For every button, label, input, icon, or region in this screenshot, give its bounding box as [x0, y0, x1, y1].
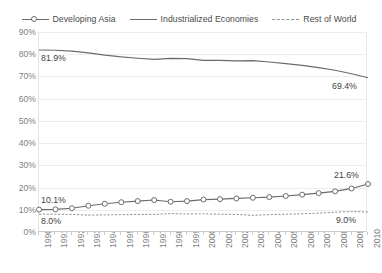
- data-point-marker: [201, 197, 206, 202]
- x-axis-tick-mark: [137, 232, 138, 235]
- legend-label: Rest of World: [303, 14, 356, 24]
- data-point-marker: [300, 192, 305, 197]
- x-axis-tick-mark: [170, 232, 171, 235]
- x-axis-tick-mark: [219, 232, 220, 235]
- x-axis-tick-label: 2005: [289, 236, 299, 248]
- y-axis-tick-label: 50%: [2, 116, 36, 126]
- x-axis-tick-label: 1995: [125, 236, 135, 248]
- line-marker-swatch-icon: [22, 15, 49, 24]
- x-axis-tick-mark: [252, 232, 253, 235]
- y-axis-tick-label: 80%: [2, 49, 36, 59]
- y-axis-tick-label: 30%: [2, 160, 36, 170]
- x-axis-tick-mark: [87, 232, 88, 235]
- x-axis-tick-mark: [54, 232, 55, 235]
- x-axis-tick-mark: [104, 232, 105, 235]
- y-axis-tick-label: 20%: [2, 183, 36, 193]
- series-line-rest-of-world: [39, 212, 368, 216]
- data-point-marker: [283, 194, 288, 199]
- x-axis-tick-label: 1992: [76, 236, 86, 248]
- x-axis-tick-label: 1991: [59, 236, 69, 248]
- data-label: 9.0%: [335, 215, 357, 225]
- x-axis-tick-label: 1990: [43, 236, 53, 248]
- x-axis-tick-label: 2000: [207, 236, 217, 248]
- x-axis-tick-mark: [268, 232, 269, 235]
- x-axis-tick-mark: [367, 232, 368, 235]
- data-point-marker: [234, 196, 239, 201]
- x-axis-tick-mark: [71, 232, 72, 235]
- series-line-industrialized-economies: [39, 50, 368, 78]
- plot-area: [38, 32, 367, 232]
- x-axis-tick-mark: [38, 232, 39, 235]
- x-axis-tick-label: 1994: [108, 236, 118, 248]
- x-axis-tick-label: 1997: [158, 236, 168, 248]
- legend-item-developing-asia[interactable]: Developing Asia: [22, 14, 116, 24]
- data-point-marker: [185, 199, 190, 204]
- x-axis-tick-label: 2002: [240, 236, 250, 248]
- x-axis-tick-mark: [203, 232, 204, 235]
- x-axis-tick-label: 1998: [174, 236, 184, 248]
- data-point-marker: [333, 189, 338, 194]
- data-point-marker: [152, 198, 157, 203]
- x-axis-tick-label: 1999: [191, 236, 201, 248]
- y-axis-tick-label: 90%: [2, 27, 36, 37]
- line-swatch-icon: [130, 15, 157, 24]
- x-axis-tick-label: 1993: [92, 236, 102, 248]
- legend-label: Developing Asia: [53, 14, 116, 24]
- chart-legend: Developing Asia Industrialized Economies…: [0, 9, 378, 29]
- data-label: 8.0%: [40, 216, 62, 226]
- x-axis-tick-label: 2007: [322, 236, 332, 248]
- x-axis-tick-mark: [334, 232, 335, 235]
- x-axis-tick-label: 2004: [273, 236, 283, 248]
- y-axis-tick-label: 70%: [2, 71, 36, 81]
- x-axis-tick-label: 1996: [141, 236, 151, 248]
- data-point-marker: [102, 201, 107, 206]
- x-axis-tick-mark: [235, 232, 236, 235]
- x-axis-tick-label: 2009: [355, 236, 365, 248]
- x-axis-tick-mark: [301, 232, 302, 235]
- data-label: 69.4%: [331, 81, 358, 91]
- data-point-marker: [86, 203, 91, 208]
- x-axis-tick-label: 2008: [339, 236, 349, 248]
- data-point-marker: [37, 207, 42, 212]
- legend-item-industrialized-economies[interactable]: Industrialized Economies: [130, 14, 259, 24]
- x-axis-tick-label: 2006: [306, 236, 316, 248]
- data-point-marker: [119, 200, 124, 205]
- y-axis-tick-label: 60%: [2, 94, 36, 104]
- data-label: 81.9%: [40, 53, 67, 63]
- x-axis-tick-mark: [186, 232, 187, 235]
- x-axis-tick-mark: [120, 232, 121, 235]
- x-axis-tick-mark: [318, 232, 319, 235]
- x-axis-tick-label: 2003: [256, 236, 266, 248]
- y-axis-tick-label: 10%: [2, 205, 36, 215]
- data-label: 21.6%: [333, 170, 360, 180]
- x-axis-tick-label: 2001: [224, 236, 234, 248]
- data-point-marker: [349, 186, 354, 191]
- legend-label: Industrialized Economies: [161, 14, 259, 24]
- x-axis-tick-label: 2010: [372, 236, 382, 248]
- x-axis-tick-mark: [153, 232, 154, 235]
- x-axis-tick-mark: [285, 232, 286, 235]
- series-canvas: [39, 32, 368, 232]
- data-point-marker: [53, 207, 58, 212]
- x-axis-tick-mark: [351, 232, 352, 235]
- data-point-marker: [135, 199, 140, 204]
- data-point-marker: [366, 182, 371, 187]
- data-point-marker: [316, 191, 321, 196]
- data-point-marker: [69, 206, 74, 211]
- data-label: 10.1%: [40, 195, 67, 205]
- y-axis-tick-label: 40%: [2, 138, 36, 148]
- dashed-line-swatch-icon: [272, 15, 299, 24]
- y-axis-tick-label: 0%: [2, 227, 36, 237]
- data-point-marker: [168, 199, 173, 204]
- data-point-marker: [250, 195, 255, 200]
- data-point-marker: [217, 197, 222, 202]
- data-point-marker: [267, 195, 272, 200]
- legend-item-rest-of-world[interactable]: Rest of World: [272, 14, 356, 24]
